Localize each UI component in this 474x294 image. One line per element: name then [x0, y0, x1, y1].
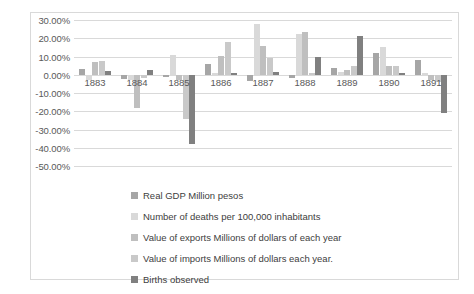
bar	[399, 73, 405, 75]
x-axis-tick-label: 1888	[284, 77, 326, 88]
bar	[231, 73, 237, 75]
bar	[92, 62, 98, 75]
bar-group: 1889	[326, 20, 368, 166]
bar	[309, 73, 315, 75]
bar-group: 1891	[410, 20, 452, 166]
y-axis-tick-label: -10.00%	[35, 88, 70, 99]
bar	[422, 73, 428, 75]
legend-item[interactable]: Value of imports Millions of dollars eac…	[131, 248, 441, 269]
legend-item[interactable]: Value of exports Millions of dollars of …	[131, 227, 441, 248]
bar	[386, 66, 392, 75]
chart-frame: 30.00%20.00%10.00%0.00%-10.00%-20.00%-30…	[30, 12, 459, 280]
bar	[260, 46, 266, 74]
bar	[205, 64, 211, 75]
chart-legend: Real GDP Million pesosNumber of deaths p…	[131, 185, 441, 290]
legend-swatch-icon	[131, 255, 138, 262]
bar-group: 1883	[74, 20, 116, 166]
y-axis-tick-label: -40.00%	[35, 142, 70, 153]
bar-groups: 188318841885188618871888188918901891	[74, 20, 452, 166]
bar	[338, 72, 344, 75]
bar	[273, 72, 279, 75]
bar	[351, 66, 357, 75]
legend-item[interactable]: Births observed	[131, 269, 441, 290]
legend-item-label: Real GDP Million pesos	[143, 190, 243, 201]
legend-swatch-icon	[131, 213, 138, 220]
legend-item[interactable]: Number of deaths per 100,000 inhabitants	[131, 206, 441, 227]
bar-group: 1886	[200, 20, 242, 166]
bar-group: 1890	[368, 20, 410, 166]
bar	[331, 68, 337, 74]
legend-item-label: Value of exports Millions of dollars of …	[143, 232, 341, 243]
bar	[105, 71, 111, 75]
bar	[225, 42, 231, 75]
x-axis-tick-label: 1883	[74, 77, 116, 88]
gridline	[74, 166, 452, 167]
x-axis-tick-label: 1884	[116, 77, 158, 88]
legend-swatch-icon	[131, 276, 138, 283]
y-axis-tick-label: -50.00%	[35, 161, 70, 172]
x-axis-tick-label: 1891	[410, 77, 452, 88]
bar	[170, 55, 176, 75]
bar	[373, 53, 379, 75]
bar	[218, 56, 224, 75]
legend-item-label: Value of imports Millions of dollars eac…	[143, 253, 333, 264]
bar-group: 1884	[116, 20, 158, 166]
bar	[315, 57, 321, 75]
bar	[267, 58, 273, 74]
x-axis-tick-label: 1885	[158, 77, 200, 88]
bar	[415, 60, 421, 75]
bar	[147, 70, 153, 75]
bar-group: 1885	[158, 20, 200, 166]
x-axis-tick-label: 1887	[242, 77, 284, 88]
y-axis-tick-label: -20.00%	[35, 106, 70, 117]
bar	[344, 70, 350, 75]
y-axis-tick-label: 0.00%	[44, 69, 70, 80]
y-axis-tick-label: 20.00%	[38, 33, 70, 44]
legend-item-label: Births observed	[143, 274, 209, 285]
bar	[79, 69, 85, 74]
plot-area: 30.00%20.00%10.00%0.00%-10.00%-20.00%-30…	[74, 20, 452, 166]
bar	[380, 47, 386, 74]
x-axis-tick-label: 1890	[368, 77, 410, 88]
y-axis-tick-label: 30.00%	[38, 15, 70, 26]
bar-group: 1887	[242, 20, 284, 166]
legend-swatch-icon	[131, 192, 138, 199]
x-axis-tick-label: 1889	[326, 77, 368, 88]
y-axis-tick-label: 10.00%	[38, 51, 70, 62]
bar	[212, 73, 218, 75]
bar	[302, 32, 308, 75]
legend-item[interactable]: Real GDP Million pesos	[131, 185, 441, 206]
legend-item-label: Number of deaths per 100,000 inhabitants	[143, 211, 320, 222]
x-axis-tick-label: 1886	[200, 77, 242, 88]
bar	[99, 61, 105, 75]
bar-group: 1888	[284, 20, 326, 166]
bar	[296, 34, 302, 75]
bar	[357, 36, 363, 74]
legend-swatch-icon	[131, 234, 138, 241]
bar	[254, 24, 260, 75]
bar	[393, 66, 399, 75]
y-axis-tick-label: -30.00%	[35, 124, 70, 135]
